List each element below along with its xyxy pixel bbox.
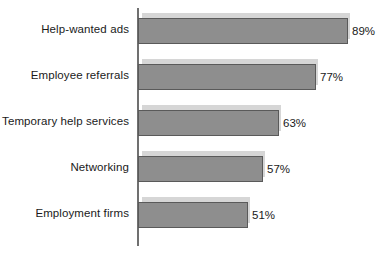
bar-row: Employee referrals 77% (0, 56, 388, 102)
bar-category-label: Employment firms (0, 206, 129, 220)
bar-row: Help-wanted ads 89% (0, 10, 388, 56)
bar-row: Employment firms 51% (0, 194, 388, 240)
bar-value-label: 63% (283, 116, 306, 130)
bar-fill[interactable] (138, 156, 263, 182)
bar-row: Temporary help services 63% (0, 102, 388, 148)
bar-category-label: Networking (0, 160, 129, 174)
bar-chart: Help-wanted ads 89% Employee referrals 7… (0, 0, 388, 257)
bar-fill[interactable] (138, 202, 248, 228)
bar-row: Networking 57% (0, 148, 388, 194)
bar-value-label: 89% (352, 24, 375, 38)
bar-value-label: 77% (320, 70, 343, 84)
bar-category-label: Employee referrals (0, 68, 129, 82)
bar-value-label: 51% (252, 208, 275, 222)
bar-category-label: Help-wanted ads (0, 22, 129, 36)
bar-value-label: 57% (267, 162, 290, 176)
bar-category-label: Temporary help services (0, 114, 129, 128)
bar-fill[interactable] (138, 110, 279, 136)
bar-fill[interactable] (138, 64, 316, 90)
bar-fill[interactable] (138, 18, 348, 44)
